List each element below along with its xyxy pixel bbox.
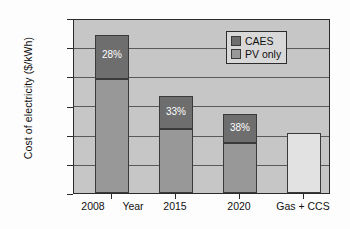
x-tick-mark <box>239 194 240 199</box>
bar-segment-caes-2015[interactable]: 33% <box>159 96 193 129</box>
legend-swatch-caes-icon <box>231 36 241 46</box>
legend: CAES PV only <box>226 31 287 64</box>
bars-group: 28% 33% 38% <box>74 20 329 193</box>
bar-gas-ccs[interactable] <box>287 133 321 193</box>
legend-item-caes[interactable]: CAES <box>231 35 281 47</box>
x-tick-label-2015: 2015 <box>163 200 186 212</box>
bar-label-2020: 38% <box>224 122 256 133</box>
x-tick-label-2008: 2008 <box>81 200 104 212</box>
bar-2015[interactable]: 33% <box>159 96 193 193</box>
x-tick-mark <box>175 194 176 199</box>
bar-label-2008: 28% <box>96 49 128 60</box>
y-tick-mark <box>67 194 73 195</box>
bar-segment-caes-2020[interactable]: 38% <box>223 114 257 143</box>
x-tick-mark <box>111 194 112 199</box>
legend-item-pv-only[interactable]: PV only <box>231 48 281 60</box>
bar-segment-gas-ccs[interactable] <box>287 133 321 193</box>
x-tick-label-2020: 2020 <box>227 200 250 212</box>
bar-2008[interactable]: 28% <box>95 36 129 193</box>
x-axis-title: Year <box>122 200 143 212</box>
chart-figure: Cost of electricity ($/kWh) 0.30 0.25 0.… <box>0 0 350 229</box>
x-tick-mark <box>303 194 304 199</box>
x-tick-label-gas-ccs: Gas + CCS <box>276 200 329 212</box>
bar-segment-pv-2015[interactable] <box>159 129 193 193</box>
bar-segment-pv-2008[interactable] <box>95 79 129 193</box>
bar-2020[interactable]: 38% <box>223 114 257 193</box>
bar-segment-pv-2020[interactable] <box>223 143 257 193</box>
bar-label-2015: 33% <box>160 106 192 117</box>
legend-swatch-pv-only-icon <box>231 49 241 59</box>
plot-area: 28% 33% 38% <box>73 19 330 194</box>
y-axis-title: Cost of electricity ($/kWh) <box>22 13 34 183</box>
legend-label-pv-only: PV only <box>245 49 281 60</box>
bar-segment-caes-2008[interactable]: 28% <box>95 35 129 79</box>
legend-label-caes: CAES <box>245 36 274 47</box>
